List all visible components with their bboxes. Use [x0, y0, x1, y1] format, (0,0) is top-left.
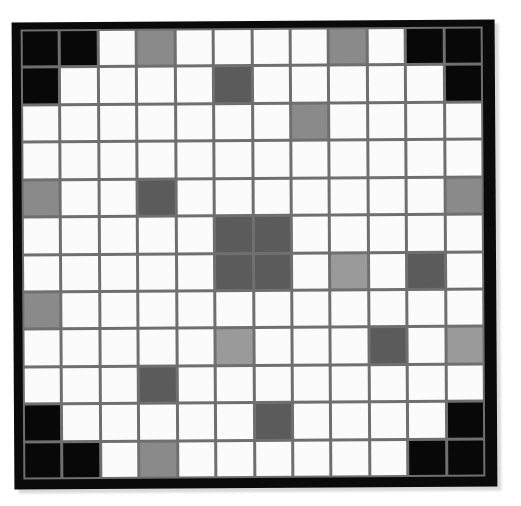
grid-cell[interactable] [64, 443, 100, 478]
grid-cell[interactable] [370, 328, 406, 363]
grid-cell[interactable] [178, 255, 214, 290]
grid-cell[interactable] [102, 367, 138, 402]
grid-cell[interactable] [446, 216, 482, 251]
grid-cell[interactable] [139, 292, 175, 327]
grid-cell[interactable] [23, 31, 59, 66]
grid-cell[interactable] [102, 442, 138, 477]
grid-cell[interactable] [292, 30, 328, 65]
grid-cell[interactable] [445, 29, 481, 64]
grid-cell[interactable] [25, 368, 61, 403]
grid-cell[interactable] [368, 29, 404, 64]
grid-cell[interactable] [370, 216, 406, 251]
grid-cell[interactable] [178, 292, 214, 327]
grid-cell[interactable] [332, 329, 368, 364]
grid-cell[interactable] [407, 141, 443, 176]
grid-cell[interactable] [253, 67, 289, 102]
grid-cell[interactable] [61, 31, 97, 66]
grid-cell[interactable] [63, 405, 99, 440]
grid-cell[interactable] [408, 216, 444, 251]
grid-cell[interactable] [330, 67, 366, 102]
grid-cell[interactable] [177, 180, 213, 215]
grid-cell[interactable] [253, 30, 289, 65]
grid-cell[interactable] [24, 331, 60, 366]
grid-cell[interactable] [292, 142, 328, 177]
grid-cell[interactable] [139, 180, 175, 215]
grid-cell[interactable] [409, 440, 445, 475]
grid-cell[interactable] [408, 291, 444, 326]
grid-cell[interactable] [140, 367, 176, 402]
grid-cell[interactable] [102, 405, 138, 440]
grid-cell[interactable] [63, 330, 99, 365]
grid-cell[interactable] [138, 68, 174, 103]
grid-cell[interactable] [139, 143, 175, 178]
grid-cell[interactable] [62, 255, 98, 290]
grid-cell[interactable] [255, 254, 291, 289]
grid-cell[interactable] [138, 30, 174, 65]
grid-cell[interactable] [255, 404, 291, 439]
grid-cell[interactable] [331, 179, 367, 214]
grid-cell[interactable] [101, 330, 137, 365]
grid-cell[interactable] [407, 29, 443, 64]
grid-cell[interactable] [217, 329, 253, 364]
grid-cell[interactable] [215, 142, 251, 177]
grid-cell[interactable] [255, 292, 291, 327]
grid-cell[interactable] [293, 217, 329, 252]
grid-cell[interactable] [139, 218, 175, 253]
grid-cell[interactable] [62, 181, 98, 216]
grid-cell[interactable] [215, 105, 251, 140]
grid-cell[interactable] [179, 442, 215, 477]
grid-cell[interactable] [330, 29, 366, 64]
grid-cell[interactable] [100, 68, 136, 103]
grid-cell[interactable] [254, 217, 290, 252]
grid-cell[interactable] [63, 293, 99, 328]
grid-cell[interactable] [254, 179, 290, 214]
grid-cell[interactable] [255, 329, 291, 364]
grid-cell[interactable] [217, 367, 253, 402]
grid-cell[interactable] [446, 178, 482, 213]
grid-cell[interactable] [293, 254, 329, 289]
grid-cell[interactable] [23, 106, 59, 141]
grid-cell[interactable] [215, 67, 251, 102]
grid-cell[interactable] [448, 440, 484, 475]
grid-cell[interactable] [408, 253, 444, 288]
grid-cell[interactable] [62, 218, 98, 253]
grid-cell[interactable] [407, 66, 443, 101]
grid-cell[interactable] [100, 143, 136, 178]
grid-cell[interactable] [294, 404, 330, 439]
grid-cell[interactable] [255, 367, 291, 402]
grid-cell[interactable] [176, 30, 212, 65]
grid-cell[interactable] [447, 253, 483, 288]
grid-cell[interactable] [138, 105, 174, 140]
grid-cell[interactable] [140, 442, 176, 477]
grid-cell[interactable] [370, 254, 406, 289]
grid-cell[interactable] [24, 218, 60, 253]
grid-cell[interactable] [61, 68, 97, 103]
grid-cell[interactable] [409, 328, 445, 363]
grid-cell[interactable] [25, 443, 61, 478]
grid-cell[interactable] [447, 365, 483, 400]
grid-cell[interactable] [369, 66, 405, 101]
grid-cell[interactable] [177, 68, 213, 103]
grid-cell[interactable] [216, 180, 252, 215]
grid-cell[interactable] [254, 142, 290, 177]
grid-cell[interactable] [177, 105, 213, 140]
grid-cell[interactable] [24, 293, 60, 328]
grid-cell[interactable] [256, 441, 292, 476]
grid-cell[interactable] [179, 404, 215, 439]
grid-cell[interactable] [178, 367, 214, 402]
grid-cell[interactable] [371, 441, 407, 476]
grid-cell[interactable] [369, 141, 405, 176]
grid-cell[interactable] [332, 291, 368, 326]
grid-cell[interactable] [63, 368, 99, 403]
grid-cell[interactable] [99, 31, 135, 66]
grid-cell[interactable] [24, 256, 60, 291]
grid-cell[interactable] [217, 442, 253, 477]
grid-cell[interactable] [445, 66, 481, 101]
grid-cell[interactable] [293, 329, 329, 364]
grid-cell[interactable] [331, 254, 367, 289]
grid-cell[interactable] [332, 403, 368, 438]
grid-cell[interactable] [332, 366, 368, 401]
grid-cell[interactable] [292, 67, 328, 102]
grid-cell[interactable] [371, 403, 407, 438]
grid-cell[interactable] [24, 181, 60, 216]
